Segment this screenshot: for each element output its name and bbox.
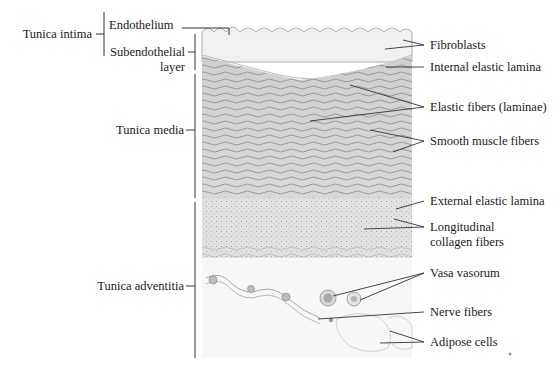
media-layer [202,56,412,198]
label-smooth-muscle-fibers: Smooth muscle fibers [430,134,539,148]
label-nerve-fibers: Nerve fibers [430,305,492,319]
label-adipose-cells: Adipose cells [430,335,498,349]
label-longitudinal: Longitudinal [430,220,495,234]
label-tunica-adventitia: Tunica adventitia [40,279,184,293]
label-tunica-intima: Tunica intima [2,27,92,41]
label-external-elastic-lamina: External elastic lamina [430,194,545,208]
label-fibroblasts: Fibroblasts [430,38,486,52]
label-subendothelial-layer: layer [100,60,185,74]
label-vasa-vasorum: Vasa vasorum [430,266,500,280]
label-tunica-media: Tunica media [60,123,184,137]
dot-mark [509,353,512,356]
label-subendothelial: Subendothelial [100,45,185,59]
artery-wall-diagram: Tunica intima Endothelium Subendothelial… [0,0,558,375]
label-collagen-fibers: collagen fibers [430,235,504,249]
label-internal-elastic-lamina: Internal elastic lamina [430,60,541,74]
label-endothelium: Endothelium [109,18,174,32]
label-elastic-fibers: Elastic fibers (laminae) [430,100,547,114]
